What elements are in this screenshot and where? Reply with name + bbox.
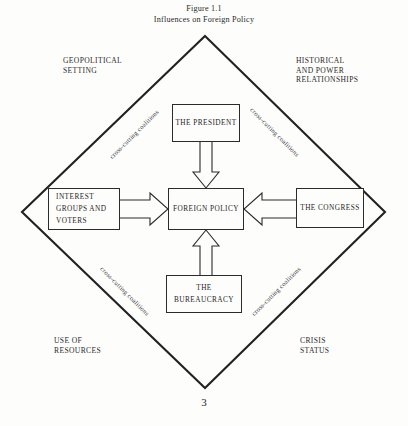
node-the-congress: THE CONGRESS (296, 188, 364, 228)
corner-label-historical-and-power-relationships: HISTORICAL AND POWER RELATIONSHIPS (296, 56, 358, 85)
figure-page: Figure 1.1 Influences on Foreign Policy … (0, 0, 408, 426)
node-the-bureaucracy: THE BUREAUCRACY (166, 275, 242, 313)
corner-label-geopolitical-setting: GEOPOLITICAL SETTING (63, 56, 122, 75)
corner-label-crisis-status: CRISIS STATUS (300, 336, 329, 355)
arrow-bureaucracy-to-foreign-policy (193, 230, 219, 275)
node-the-president: THE PRESIDENT (172, 104, 240, 142)
node-foreign-policy: FOREIGN POLICY (168, 188, 244, 230)
page-number: 3 (0, 396, 408, 408)
corner-label-use-of-resources: USE OF RESOURCES (54, 336, 101, 355)
node-interest-groups-and-voters: INTEREST GROUPS AND VOTERS (48, 188, 120, 230)
arrow-president-to-foreign-policy (193, 142, 219, 188)
arrow-interest-groups-to-foreign-policy (120, 193, 168, 225)
arrow-congress-to-foreign-policy (244, 193, 296, 225)
